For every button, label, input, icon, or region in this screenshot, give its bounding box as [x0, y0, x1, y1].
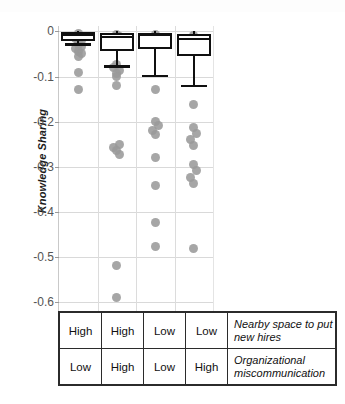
- condition-level-cell: High: [59, 312, 102, 349]
- median-line: [100, 36, 134, 38]
- y-axis-tick-label: -0.5: [24, 251, 54, 263]
- data-point: [151, 181, 160, 190]
- y-axis-tick-label: -0.3: [24, 161, 54, 173]
- condition-factor-label: Organizational miscommunication: [228, 349, 337, 386]
- gridline-vertical: [98, 26, 99, 311]
- y-axis-tick: [55, 257, 59, 258]
- y-axis-tick-labels: 0-0.1-0.2-0.3-0.4-0.5-0.6: [22, 0, 54, 404]
- condition-level-cell: Low: [186, 312, 228, 349]
- y-axis-tick-label: -0.2: [24, 116, 54, 128]
- data-point: [74, 85, 83, 94]
- data-point: [189, 244, 198, 253]
- condition-factor-label: Nearby space to put new hires: [228, 312, 337, 349]
- y-axis-tick: [55, 212, 59, 213]
- y-axis-tick-label: -0.4: [24, 206, 54, 218]
- whisker-cap-lower: [181, 85, 207, 88]
- data-point: [151, 130, 160, 139]
- data-point: [112, 81, 121, 90]
- data-point: [112, 261, 121, 270]
- condition-level-cell: Low: [144, 349, 186, 386]
- data-point: [189, 179, 198, 188]
- condition-level-cell: High: [102, 349, 144, 386]
- data-point: [189, 100, 198, 109]
- data-point: [112, 72, 121, 81]
- y-axis-tick-label: -0.6: [24, 296, 54, 308]
- condition-table: HighHighLowLowNearby space to put new hi…: [58, 311, 337, 386]
- y-axis-tick-label: 0: [24, 25, 54, 37]
- gridline-vertical: [175, 26, 176, 311]
- whisker-cap-lower: [142, 75, 168, 78]
- median-line: [138, 34, 172, 36]
- y-axis-tick: [55, 122, 59, 123]
- whisker-cap-lower: [65, 43, 91, 46]
- data-point: [151, 153, 160, 162]
- plot-area: [58, 26, 214, 311]
- y-axis-tick: [55, 302, 59, 303]
- condition-level-cell: Low: [144, 312, 186, 349]
- data-point: [151, 218, 160, 227]
- condition-table-row: HighHighLowLowNearby space to put new hi…: [59, 312, 336, 349]
- median-line: [177, 38, 211, 40]
- boxplot-figure: Knowledge Sharing 0-0.1-0.2-0.3-0.4-0.5-…: [0, 0, 345, 404]
- data-point: [112, 293, 121, 302]
- whisker-cap-lower: [104, 65, 130, 68]
- gridline-vertical: [136, 26, 137, 311]
- condition-level-cell: High: [186, 349, 228, 386]
- condition-level-cell: Low: [59, 349, 102, 386]
- y-axis-tick: [55, 77, 59, 78]
- box-iqr: [177, 34, 211, 56]
- data-point: [74, 68, 83, 77]
- data-point: [74, 52, 83, 61]
- data-point: [189, 141, 198, 150]
- median-line: [61, 34, 95, 36]
- y-axis-tick: [55, 31, 59, 32]
- condition-level-cell: High: [102, 312, 144, 349]
- condition-table-row: LowHighLowHighOrganizational miscommunic…: [59, 349, 336, 386]
- y-axis-tick: [55, 167, 59, 168]
- data-point: [115, 150, 124, 159]
- data-point: [151, 242, 160, 251]
- y-axis-tick-label: -0.1: [24, 71, 54, 83]
- data-point: [151, 85, 160, 94]
